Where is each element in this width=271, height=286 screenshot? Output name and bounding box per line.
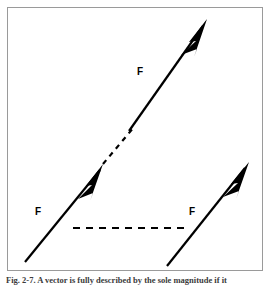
- figure-caption: Fig. 2-7. A vector is fully described by…: [6, 275, 268, 285]
- resultant-vector-label: F: [137, 67, 143, 77]
- lower-left-vector-label: F: [35, 207, 41, 217]
- diagonal-construction-line: [103, 127, 134, 164]
- figure-frame: F F F: [7, 7, 263, 271]
- lower-right-vector-arrowhead: [223, 162, 249, 199]
- figure-page: F F F Fig. 2-7. A vector is fully descri…: [0, 0, 271, 286]
- resultant-vector-shaft: [129, 26, 203, 131]
- vector-diagram: [8, 8, 262, 270]
- lower-right-vector-label: F: [189, 207, 195, 217]
- lower-left-vector-arrowhead: [78, 164, 103, 201]
